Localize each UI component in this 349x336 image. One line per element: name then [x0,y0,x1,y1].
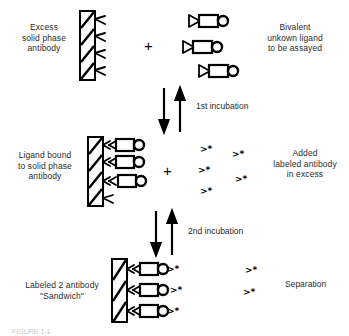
first-incubation-label: 1st incubation [196,101,248,111]
row2-left-label: Ligand bound to solid phase antibody [5,150,85,182]
free-labeled-antibody-1: >* [245,266,257,275]
solid-phase-antibody-row1 [78,10,120,82]
row2-right-label: Added labeled antibody in excess [262,148,348,180]
row2-plus-sign: + [163,163,172,178]
separation-label: Separation [285,279,326,289]
sandwich-label-3: >* [167,307,179,316]
labeled-antibody-4: >* [235,175,247,184]
second-incubation-arrows [150,211,184,255]
labeled-antibody-5: >* [200,187,212,196]
ligand-bound-solid-phase-row2 [86,136,158,208]
free-ligand-1 [186,12,232,30]
labeled-antibody-1: >* [200,145,212,154]
sandwich-complex-row3 [110,258,198,324]
second-incubation-label: 2nd incubation [188,226,243,236]
sandwich-label-2: >* [170,286,182,295]
figure-canvas: Excess solid phase antibody + [0,0,349,336]
row1-plus-sign: + [144,38,153,53]
free-labeled-antibody-2: >* [243,288,255,297]
figure-caption: FIGURE 1-1 [12,328,152,336]
row1-right-label: Bivalent unkown ligand to be assayed [245,22,345,54]
sandwich-label-1: >* [167,265,179,274]
free-ligand-3 [196,62,242,80]
labeled-antibody-2: >* [232,150,244,159]
free-ligand-2 [180,38,226,56]
first-incubation-arrows [158,88,192,132]
labeled-antibody-3: >* [198,166,210,175]
row1-left-label: Excess solid phase antibody [10,22,78,54]
row3-left-label: Labeled 2 antibody "Sandwich" [8,280,116,301]
